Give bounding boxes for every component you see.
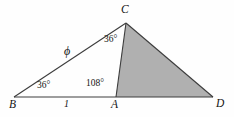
vertex-label-b: B	[9, 99, 16, 111]
angle-label-at-c: 36°	[104, 35, 117, 45]
vertex-label-d: D	[216, 98, 225, 110]
side-label-bc-phi: ϕ	[64, 45, 70, 57]
angle-label-at-b: 36°	[37, 81, 50, 91]
vertex-label-a: A	[111, 99, 118, 111]
shaded-triangle-acd	[116, 23, 213, 97]
angle-label-at-a: 108°	[86, 79, 104, 89]
vertex-label-c: C	[121, 4, 129, 16]
side-label-ba: 1	[64, 99, 69, 109]
geometry-figure: B A D C 36° 108° 36° 1 ϕ	[0, 0, 234, 117]
